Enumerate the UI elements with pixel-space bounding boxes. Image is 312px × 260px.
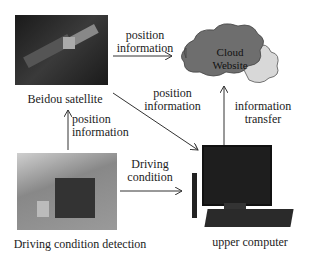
edge-label-sat-to-cloud: position information xyxy=(110,29,180,55)
satellite-label: Beidou satellite xyxy=(15,93,115,106)
detection-device-photo xyxy=(17,153,117,230)
edge-label-sat-to-computer: position information xyxy=(135,87,210,113)
edge-label-computer-to-cloud: information transfer xyxy=(228,100,298,126)
detection-label: Driving condition detection xyxy=(5,238,155,251)
keyboard xyxy=(204,209,293,227)
edge-label-detection-to-computer: Driving condition xyxy=(120,158,180,184)
edge-label-detection-to-sat: position information xyxy=(72,113,140,139)
cloud-label: Cloud Website xyxy=(200,46,260,72)
speaker xyxy=(192,173,197,218)
satellite-photo xyxy=(15,15,108,85)
monitor xyxy=(202,145,272,206)
computer-label: upper computer xyxy=(200,236,300,249)
computer-photo xyxy=(192,145,302,227)
